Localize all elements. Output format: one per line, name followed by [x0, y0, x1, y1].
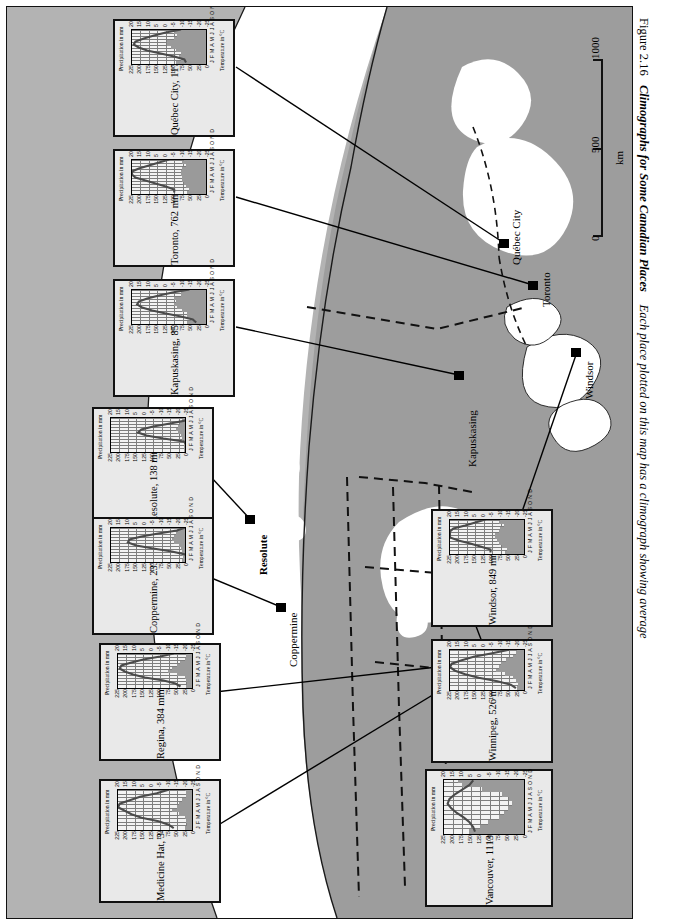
precipitation-tick-label: 100: [156, 689, 162, 701]
temperature-tick-label: 15: [122, 774, 128, 787]
climograph-windsor: Windsor, 849 mm2252001751501251007550250…: [431, 509, 553, 627]
precipitation-tick-label: 125: [148, 689, 154, 701]
precipitation-tick-label: 75: [165, 831, 171, 843]
precipitation-tick-label: 50: [504, 835, 510, 847]
temperature-axis-label: Temperature in °C: [198, 418, 204, 459]
month-axis-labels: J F M A M J J A S O N D: [527, 489, 533, 553]
climograph-body: Resolute, 138 mm225200175150125100755025…: [94, 409, 216, 527]
temperature-tick-label: -10: [497, 504, 503, 517]
precipitation-tick-label: 50: [166, 563, 172, 575]
city-label-windsor: Windsor: [583, 362, 595, 399]
temperature-tick-label: -20: [182, 774, 188, 787]
figure-page: Québec City Toronto Windsor Kapuskasing …: [0, 0, 686, 923]
precipitation-tick-label: 25: [513, 835, 519, 847]
precipitation-tick-label: 100: [170, 195, 176, 207]
precipitation-tick-label: 50: [187, 325, 193, 337]
temperature-tick-label: 0: [141, 402, 147, 415]
month-axis-labels: J F M A M J J A S O N D: [195, 623, 201, 687]
month-axis-labels: J F M A M J J A S O N D: [209, 6, 215, 63]
precipitation-tick-label: 150: [153, 65, 159, 77]
climograph-plot-area: [131, 289, 207, 325]
temperature-line: [132, 29, 207, 64]
temperature-tick-label: -5: [488, 634, 494, 647]
precipitation-tick-label: 25: [196, 65, 202, 77]
temperature-axis-label: Temperature in °C: [537, 653, 543, 694]
temperature-tick-label: 0: [162, 274, 168, 287]
precipitation-tick-label: 225: [446, 691, 452, 703]
city-dot-coppermine[interactable]: [276, 603, 286, 612]
temperature-tick-label: -20: [513, 764, 519, 777]
precipitation-tick-label: 75: [179, 195, 185, 207]
precipitation-tick-label: 75: [495, 835, 501, 847]
temperature-tick-label: 10: [124, 512, 130, 525]
city-label-toronto: Toronto: [540, 272, 552, 307]
precipitation-tick-label: 25: [175, 563, 181, 575]
precipitation-tick-label: 150: [139, 831, 145, 843]
climograph-toronto: Toronto, 762 mm2252001751501251007550250…: [113, 149, 235, 267]
precipitation-tick-label: 25: [196, 325, 202, 337]
city-dot-toronto[interactable]: [528, 281, 538, 290]
precipitation-tick-label: 75: [497, 691, 503, 703]
temperature-tick-label: -10: [497, 634, 503, 647]
city-dot-kapuskasing[interactable]: [454, 371, 464, 380]
figure-caption-body: Each place plotted on this map has a cli…: [637, 305, 651, 639]
precipitation-tick-label: 225: [128, 195, 134, 207]
precipitation-tick-label: 75: [158, 563, 164, 575]
temperature-line: [450, 649, 525, 690]
climograph-body: Québec City, 1174 mm22520017515012510075…: [115, 21, 237, 139]
temperature-tick-label: 20: [107, 402, 113, 415]
climograph-plot-area: [131, 29, 207, 65]
precipitation-tick-label: 100: [149, 563, 155, 575]
precipitation-tick-label: 125: [162, 325, 168, 337]
temperature-tick-label: -10: [179, 144, 185, 157]
precipitation-tick-label: 200: [122, 689, 128, 701]
precipitation-tick-label: 0: [204, 65, 210, 77]
city-dot-windsor[interactable]: [571, 348, 581, 357]
temperature-tick-label: 0: [476, 764, 482, 777]
precipitation-tick-label: 200: [122, 831, 128, 843]
precipitation-tick-label: 0: [522, 691, 528, 703]
precipitation-tick-label: 125: [162, 65, 168, 77]
temperature-tick-label: 5: [139, 638, 145, 651]
climograph-body: Regina, 384 mm2252001751501251007550250P…: [101, 645, 223, 763]
precipitation-tick-label: 75: [158, 453, 164, 465]
temperature-tick-label: 20: [114, 774, 120, 787]
temperature-tick-label: 5: [467, 764, 473, 777]
scale-bar-tick-1000: [593, 59, 602, 61]
climograph-plot-area: [110, 417, 186, 453]
temperature-line: [132, 159, 207, 194]
temperature-tick-label: 5: [153, 14, 159, 27]
temperature-tick-label: 20: [440, 764, 446, 777]
temperature-line: [118, 653, 193, 688]
precipitation-tick-label: 125: [480, 691, 486, 703]
temperature-tick-label: 20: [128, 274, 134, 287]
city-dot-quebec-city[interactable]: [499, 239, 509, 248]
precipitation-axis-label: Precipitation in mm: [104, 651, 110, 695]
temperature-tick-label: -5: [488, 504, 494, 517]
temperature-tick-label: 15: [136, 274, 142, 287]
precipitation-tick-label: 25: [514, 691, 520, 703]
climograph-regina: Regina, 384 mm2252001751501251007550250P…: [99, 643, 221, 761]
precipitation-axis-label: Precipitation in mm: [436, 650, 442, 694]
temperature-tick-label: 0: [148, 774, 154, 787]
climograph-body: Vancouver, 1113 mm2252001751501251007550…: [427, 771, 555, 909]
precipitation-tick-label: 50: [173, 831, 179, 843]
temperature-tick-label: 15: [122, 638, 128, 651]
temperature-tick-label: -15: [173, 638, 179, 651]
precipitation-tick-label: 125: [141, 453, 147, 465]
temperature-tick-label: 15: [136, 14, 142, 27]
climograph-body: Windsor, 849 mm2252001751501251007550250…: [433, 511, 555, 629]
precipitation-tick-label: 225: [114, 689, 120, 701]
temperature-tick-label: -15: [187, 274, 193, 287]
precipitation-tick-label: 150: [139, 689, 145, 701]
precipitation-tick-label: 25: [196, 195, 202, 207]
temperature-tick-label: 20: [128, 144, 134, 157]
temperature-tick-label: -10: [179, 14, 185, 27]
month-axis-labels: J F M A M J J A S O N D: [209, 259, 215, 323]
temperature-tick-label: 10: [145, 14, 151, 27]
precipitation-axis-label: Precipitation in mm: [97, 415, 103, 459]
temperature-tick-label: -5: [170, 144, 176, 157]
city-dot-resolute[interactable]: [245, 515, 255, 524]
temperature-tick-label: -20: [196, 274, 202, 287]
precipitation-tick-label: 0: [183, 563, 189, 575]
